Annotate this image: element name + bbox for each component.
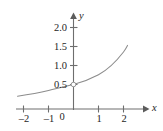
x-tick-label-pos2: 2 [118, 114, 130, 125]
y-tick-label-1-5: 1.5 [46, 42, 67, 53]
figure-container: 2.0 1.5 1.0 0.5 –2 –1 0 1 2 x y [0, 0, 163, 131]
x-tick-label-neg2: –2 [18, 114, 30, 125]
y-tick-label-2-0: 2.0 [46, 23, 67, 34]
y-tick-label-1-0: 1.0 [46, 61, 67, 72]
y-axis-arrowhead [70, 13, 77, 20]
y-axis-label: y [79, 11, 84, 22]
y-intercept-marker [71, 82, 76, 87]
x-tick-label-zero: 0 [57, 112, 67, 123]
x-axis-arrowhead [143, 106, 150, 113]
y-tick-label-0-5: 0.5 [46, 80, 67, 91]
x-axis-label: x [152, 103, 157, 114]
x-tick-label-neg1: –1 [43, 114, 55, 125]
exponential-curve [18, 45, 128, 96]
x-tick-label-pos1: 1 [93, 114, 105, 125]
